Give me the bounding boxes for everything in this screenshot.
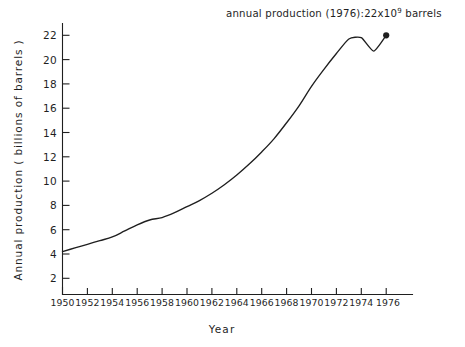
y-tick-label-6: 6 <box>50 224 57 236</box>
y-tick-label-12: 12 <box>43 151 57 163</box>
annotation-group: annual production (1976):22x109 barrels <box>226 7 442 19</box>
annotation-text-before: annual production (1976):22x10 <box>226 8 397 19</box>
y-tick-label-18: 18 <box>43 78 57 90</box>
axes-group <box>63 24 413 295</box>
x-tick-label-1970: 1970 <box>299 297 323 308</box>
y-axis-title: Annual production ( billions of barrels … <box>12 39 24 280</box>
x-tick-label-1952: 1952 <box>75 297 99 308</box>
endpoint-dot-marker <box>383 32 389 38</box>
x-tick-label-1968: 1968 <box>275 297 299 308</box>
y-tick-label-16: 16 <box>43 102 57 114</box>
line-chart: 22 20 18 16 14 12 10 8 6 4 2 <box>0 0 465 347</box>
x-tick-label-1956: 1956 <box>125 297 149 308</box>
x-tick-label-1972: 1972 <box>324 297 348 308</box>
y-tick-label-10: 10 <box>43 175 57 187</box>
y-tick-label-14: 14 <box>43 127 57 139</box>
y-tick-label-22: 22 <box>43 29 57 41</box>
x-axis-title: Year <box>208 323 236 335</box>
x-tick-label-1960: 1960 <box>175 297 199 308</box>
x-tick-label-1950: 1950 <box>50 297 74 308</box>
y-tick-label-2: 2 <box>50 272 57 284</box>
y-tick-label-8: 8 <box>50 199 57 211</box>
x-tick-label-1976: 1976 <box>376 297 400 308</box>
y-ticks-group <box>63 35 70 278</box>
x-tick-label-1958: 1958 <box>150 297 174 308</box>
x-tick-label-1962: 1962 <box>200 297 224 308</box>
y-tick-label-4: 4 <box>50 248 57 260</box>
chart-figure: 22 20 18 16 14 12 10 8 6 4 2 <box>0 0 465 347</box>
x-tick-label-1954: 1954 <box>100 297 124 308</box>
x-tick-label-1974: 1974 <box>349 297 373 308</box>
y-tick-label-20: 20 <box>43 54 57 66</box>
y-tick-labels-group: 22 20 18 16 14 12 10 8 6 4 2 <box>43 29 57 284</box>
x-tick-labels-group: 1950 1952 1954 1956 1958 1960 1962 1964 … <box>50 297 400 308</box>
annotation-text-after: barrels <box>402 8 442 19</box>
x-ticks-group <box>63 287 387 295</box>
data-series-line <box>63 35 387 251</box>
x-tick-label-1966: 1966 <box>250 297 274 308</box>
x-tick-label-1964: 1964 <box>225 297 249 308</box>
annotation-text: annual production (1976):22x109 barrels <box>226 7 442 19</box>
